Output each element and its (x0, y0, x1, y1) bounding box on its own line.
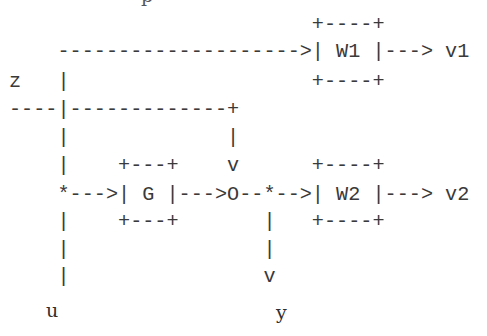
vertical-connectors-row: | | (9, 124, 239, 152)
z-input-line-row: ----|-------------+ (9, 96, 239, 124)
w1-box-top-border: +----+ (9, 11, 385, 39)
y-output-label: y (276, 300, 287, 324)
output-connectors-row: | | (9, 236, 276, 264)
block-diagram: p +----+ -------------------->| W1 |--->… (0, 0, 487, 336)
clipped-text-glyph: p (141, 0, 153, 7)
z-label-w1-box-bottom-row: z | +----+ (9, 68, 385, 96)
g-w2-box-bottom-row: | +---+ | +----+ (9, 208, 385, 236)
u-input-label: u (46, 298, 58, 322)
z-to-w1-arrow-row: -------------------->| W1 |---> v1 (9, 38, 469, 66)
y-output-arrow-row: | v (9, 263, 276, 291)
main-signal-path-row: *--->| G |--->O--*-->| W2 |---> v2 (9, 181, 469, 209)
g-w2-box-top-row: | +---+ v +----+ (9, 152, 385, 180)
